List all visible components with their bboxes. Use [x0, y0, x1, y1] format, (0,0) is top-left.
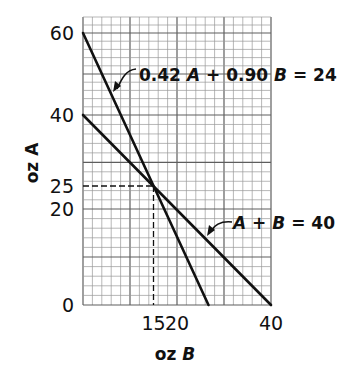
y-tick-label: 20 [50, 198, 74, 220]
y-axis-label: oz A [22, 142, 42, 183]
equation-label-1: 0.42 A + 0.90 B = 24 [113, 65, 337, 92]
x-axis-label: oz B [155, 344, 195, 364]
x-tick-label: 15 [141, 312, 165, 334]
svg-text:0.42 A + 0.90 B = 24: 0.42 A + 0.90 B = 24 [139, 65, 337, 85]
y-tick-label: 60 [50, 22, 74, 44]
y-tick-label: 0 [62, 294, 74, 316]
intersection-guides [83, 186, 154, 305]
x-tick-label: 20 [165, 312, 189, 334]
equation-label-2: A + B = 40 [207, 213, 335, 236]
y-tick-label: 25 [50, 175, 74, 197]
y-tick-label: 40 [50, 104, 74, 126]
chart-canvas: 020254060152040 oz A oz B 0.42 A + 0.90 … [0, 0, 364, 378]
svg-text:A + B = 40: A + B = 40 [231, 213, 335, 233]
grid [83, 17, 271, 305]
x-tick-label: 40 [259, 312, 283, 334]
